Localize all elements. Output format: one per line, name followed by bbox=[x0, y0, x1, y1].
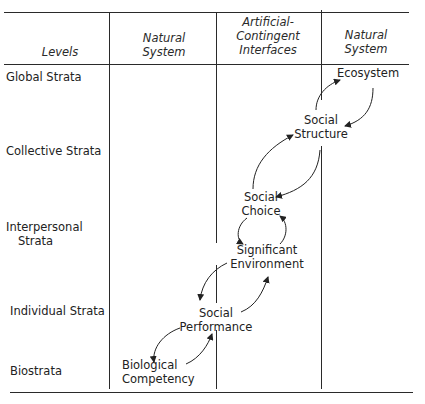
arrow-choice-to-structure bbox=[253, 135, 293, 189]
arrow-choice-to-environment bbox=[238, 218, 247, 244]
arrow-ecosystem-to-structure bbox=[345, 88, 373, 126]
cycle-arrows bbox=[0, 0, 425, 404]
arrow-structure-to-ecosystem bbox=[316, 80, 340, 110]
arrow-environment-to-performance bbox=[200, 263, 227, 300]
arrow-structure-to-choice bbox=[276, 150, 320, 197]
arrow-performance-to-environment bbox=[241, 277, 268, 312]
arrow-performance-to-competency bbox=[154, 328, 180, 362]
arrow-environment-to-choice bbox=[280, 216, 286, 244]
arrow-competency-to-performance bbox=[186, 334, 212, 364]
